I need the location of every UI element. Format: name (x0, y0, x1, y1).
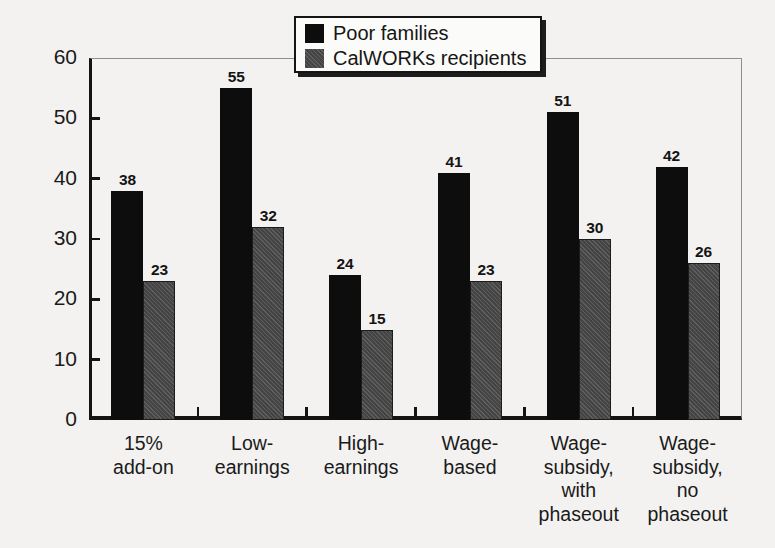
y-tick-label: 60 (17, 45, 77, 69)
bar-calworks-recipients: 26 (688, 263, 720, 420)
x-axis-label: Wage- based (416, 432, 525, 479)
bar-poor-families: 41 (438, 173, 470, 420)
y-tick-label: 20 (17, 286, 77, 310)
legend-item-calworks-recipients: CalWORKs recipients (305, 46, 540, 71)
bar-group: 3823 (111, 58, 175, 420)
chart-legend: Poor families CalWORKs recipients (294, 16, 542, 73)
bar-value-label: 38 (119, 171, 136, 189)
bar-group: 5130 (547, 58, 611, 420)
black-square-icon (305, 24, 324, 43)
bar-value-label: 55 (228, 68, 245, 86)
bar-value-label: 42 (663, 147, 680, 165)
y-tick-label: 40 (17, 166, 77, 190)
bar-value-label: 15 (369, 310, 386, 328)
bar-chart-figure: Percentage 6050403020100 382355322415412… (0, 0, 775, 548)
bar-value-label: 23 (151, 261, 168, 279)
bar-calworks-recipients: 30 (579, 239, 611, 420)
y-tick-label: 10 (17, 347, 77, 371)
y-tick-label: 50 (17, 105, 77, 129)
bar-value-label: 32 (260, 207, 277, 225)
bar-group: 4226 (656, 58, 720, 420)
bar-value-label: 23 (477, 261, 494, 279)
x-axis-label: High- earnings (307, 432, 416, 479)
y-tick-label: 0 (17, 407, 77, 431)
bar-calworks-recipients: 23 (143, 281, 175, 420)
bar-poor-families: 38 (111, 191, 143, 420)
bar-group: 2415 (329, 58, 393, 420)
bar-group: 4123 (438, 58, 502, 420)
bar-poor-families: 24 (329, 275, 361, 420)
legend-label-calworks-recipients: CalWORKs recipients (333, 48, 526, 69)
bar-calworks-recipients: 32 (252, 227, 284, 420)
bar-value-label: 51 (554, 92, 571, 110)
x-axis-label: Low- earnings (198, 432, 307, 479)
bar-poor-families: 51 (547, 112, 579, 420)
bar-group: 5532 (220, 58, 284, 420)
bars-layer: 382355322415412351304226 (89, 58, 742, 420)
bar-value-label: 26 (695, 243, 712, 261)
gray-hatched-square-icon (305, 49, 324, 68)
legend-label-poor-families: Poor families (333, 23, 449, 44)
x-axis-label: Wage- subsidy, with phaseout (524, 432, 633, 526)
legend-item-poor-families: Poor families (305, 21, 540, 46)
bar-value-label: 30 (586, 219, 603, 237)
x-axis-label: Wage- subsidy, no phaseout (633, 432, 742, 526)
bar-poor-families: 42 (656, 167, 688, 420)
bar-calworks-recipients: 23 (470, 281, 502, 420)
y-tick-label: 30 (17, 226, 77, 250)
bar-calworks-recipients: 15 (361, 330, 393, 421)
x-axis-label: 15% add-on (89, 432, 198, 479)
bar-value-label: 24 (337, 255, 354, 273)
bar-poor-families: 55 (220, 88, 252, 420)
bar-value-label: 41 (445, 153, 462, 171)
